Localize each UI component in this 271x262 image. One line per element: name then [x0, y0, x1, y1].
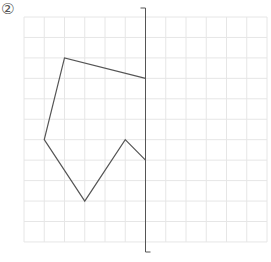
axis-top-mark [141, 8, 146, 11]
figure-outline [44, 58, 145, 201]
half-figure-polyline [44, 58, 145, 201]
symmetry-grid-diagram [0, 0, 271, 262]
symmetry-axis [141, 8, 151, 252]
axis-bottom-mark [146, 249, 151, 252]
